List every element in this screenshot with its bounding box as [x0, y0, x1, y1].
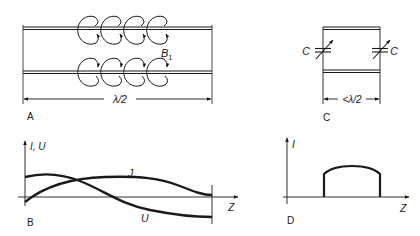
- axes-b: [18, 141, 238, 224]
- field-label-b1: B1: [161, 47, 173, 62]
- current-distribution-curve: [324, 166, 380, 197]
- bottom-conductor: [23, 71, 212, 74]
- curve-label-voltage: U: [141, 212, 149, 224]
- capacitor-left-label: C: [302, 45, 310, 57]
- field-loops-top: [78, 16, 168, 44]
- diagram-canvas: B1 λ/2 A C C: [0, 0, 420, 236]
- panel-a: B1 λ/2 A: [23, 16, 212, 122]
- field-loops-bottom: [78, 58, 168, 86]
- panel-c: C C <λ/2 C: [302, 27, 398, 123]
- top-conductor: [23, 27, 212, 30]
- x-axis-label-d: Z: [399, 202, 407, 214]
- panel-label-b: B: [27, 217, 34, 228]
- panel-label-d: D: [287, 215, 294, 226]
- y-axis-label-d: I: [292, 138, 295, 150]
- capacitor-left-icon: [315, 40, 333, 59]
- dimension-label-a: λ/2: [112, 93, 127, 105]
- axes-d: [283, 138, 409, 204]
- curve-label-current: J: [127, 167, 134, 179]
- voltage-curve: [25, 174, 212, 217]
- panel-label-c: C: [323, 112, 330, 123]
- capacitor-right-icon: [372, 40, 390, 59]
- capacitor-right-label: C: [390, 45, 398, 57]
- x-axis-label-b: Z: [227, 201, 235, 213]
- y-axis-label-b: I, U: [30, 141, 46, 152]
- panel-label-a: A: [27, 111, 34, 122]
- panel-b: I, U Z J U B: [18, 141, 238, 228]
- current-curve: [25, 177, 212, 202]
- panel-d: I Z D: [283, 138, 409, 226]
- resonator-box: [323, 27, 380, 104]
- dimension-label-c: <λ/2: [342, 94, 362, 105]
